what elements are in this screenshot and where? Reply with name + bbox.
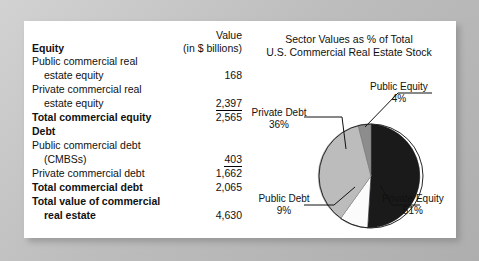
row-label-cont: estate equity bbox=[44, 98, 104, 109]
financial-table: Value (in $ billions) Equity Public comm… bbox=[32, 30, 244, 224]
pie-chart-panel: Sector Values as % of Total U.S. Commerc… bbox=[242, 27, 456, 232]
pie-label-public-debt: Public Debt 9% bbox=[248, 193, 320, 216]
pie-label-public-debt-pct: 9% bbox=[248, 205, 320, 217]
row-value-subtotal-rule: 2,397 bbox=[216, 98, 242, 111]
row-label-total: Total commercial equity bbox=[32, 112, 151, 123]
table-row: estate equity 2,397 bbox=[32, 98, 244, 112]
pie-label-public-debt-name: Public Debt bbox=[258, 193, 309, 204]
pie-label-private-debt-name: Private Debt bbox=[251, 107, 306, 118]
row-value: 168 bbox=[224, 70, 242, 81]
row-label: Private commercial real bbox=[32, 84, 142, 95]
row-value-total: 2,065 bbox=[216, 182, 242, 193]
table-row: Private commercial real bbox=[32, 84, 244, 98]
table-row: Public commercial debt bbox=[32, 140, 244, 154]
figure-container: Value (in $ billions) Equity Public comm… bbox=[0, 0, 479, 261]
table-row-grand-total: Total value of commercial bbox=[32, 196, 244, 210]
row-label-grand-total: Total value of commercial bbox=[32, 196, 160, 207]
table-row-total: Total commercial equity 2,565 bbox=[32, 112, 244, 126]
pie-label-private-equity-name: Private Equity bbox=[382, 193, 444, 204]
table-row: (CMBSs) 403 bbox=[32, 154, 244, 168]
pie-label-private-debt: Private Debt 36% bbox=[242, 107, 316, 130]
pie-graphic: Public Equity 4% Private Debt 36% Public… bbox=[242, 27, 456, 232]
content-panel: Value (in $ billions) Equity Public comm… bbox=[24, 21, 456, 238]
table-row: Public commercial real bbox=[32, 56, 244, 70]
pie-label-public-equity: Public Equity 4% bbox=[370, 81, 428, 104]
row-label: Public commercial debt bbox=[32, 140, 141, 151]
row-label: Public commercial real bbox=[32, 56, 138, 67]
row-label-cont: estate equity bbox=[44, 70, 104, 81]
pie-label-private-debt-pct: 36% bbox=[242, 119, 316, 131]
row-value-subtotal-rule: 403 bbox=[224, 154, 242, 167]
table-row-total: Total commercial debt 2,065 bbox=[32, 182, 244, 196]
value-column-header: Value bbox=[216, 30, 242, 41]
row-value: 1,662 bbox=[216, 168, 242, 179]
value-unit-header: (in $ billions) bbox=[183, 43, 242, 54]
table-header: Value (in $ billions) Equity bbox=[32, 30, 244, 56]
table-row: estate equity 168 bbox=[32, 70, 244, 84]
row-value-grand-total: 4,630 bbox=[216, 210, 242, 221]
section-heading-debt-row: Debt bbox=[32, 126, 244, 140]
pie-label-private-equity: Private Equity 51% bbox=[382, 193, 444, 216]
row-label: Private commercial debt bbox=[32, 168, 145, 179]
section-heading-equity: Equity bbox=[32, 43, 64, 54]
row-value-total: 2,565 bbox=[216, 112, 242, 123]
row-label-total: Total commercial debt bbox=[32, 182, 143, 193]
table-row: Private commercial debt 1,662 bbox=[32, 168, 244, 182]
pie-label-public-equity-name: Public Equity bbox=[370, 81, 428, 92]
pie-label-private-equity-pct: 51% bbox=[382, 205, 444, 217]
row-label-grand-total-cont: real estate bbox=[44, 210, 96, 221]
row-label-cont: (CMBSs) bbox=[44, 154, 87, 165]
table-row-grand-total: real estate 4,630 bbox=[32, 210, 244, 224]
section-heading-debt: Debt bbox=[32, 126, 55, 137]
pie-label-public-equity-pct: 4% bbox=[370, 93, 428, 105]
